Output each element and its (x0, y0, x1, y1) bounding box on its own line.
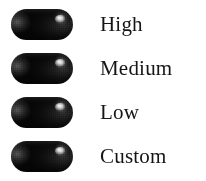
legend-item-label: Medium (100, 58, 172, 79)
legend-item-label: Low (100, 102, 139, 123)
legend-item-label: Custom (100, 146, 167, 167)
gradient-pill-swatch-custom[interactable] (11, 141, 73, 172)
legend-item-custom[interactable]: Custom (0, 140, 206, 172)
quality-level-legend-list: High Medium Low Custom (0, 0, 206, 181)
gradient-pill-swatch-medium[interactable] (11, 53, 73, 84)
legend-item-medium[interactable]: Medium (0, 52, 206, 84)
pill-body (11, 141, 73, 172)
gradient-pill-swatch-low[interactable] (11, 97, 73, 128)
gradient-pill-swatch-high[interactable] (11, 9, 73, 40)
legend-item-label: High (100, 14, 143, 35)
pill-body (11, 97, 73, 128)
pill-body (11, 9, 73, 40)
pill-body (11, 53, 73, 84)
legend-item-high[interactable]: High (0, 8, 206, 40)
legend-item-low[interactable]: Low (0, 96, 206, 128)
